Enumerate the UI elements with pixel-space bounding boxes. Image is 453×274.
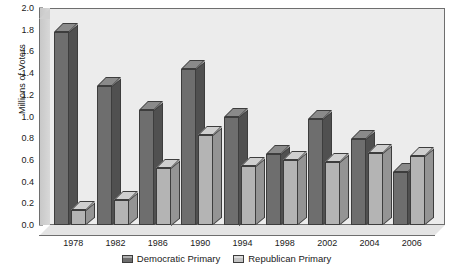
x-axis-tick-label-1994: 1994: [232, 238, 252, 248]
bar-front-face: [54, 32, 69, 225]
bars-layer: [39, 8, 445, 236]
bar-1978-republican: [71, 210, 86, 225]
bar-front-face: [224, 117, 239, 226]
plot-area: [39, 8, 445, 236]
bar-1998-democratic: [266, 154, 281, 225]
y-axis-tick-label: 0.4: [21, 177, 34, 187]
bar-side-face: [213, 127, 222, 225]
bar-front-face: [283, 160, 298, 225]
y-axis-tick-label: 1.2: [21, 90, 34, 100]
bar-2006-republican: [410, 156, 425, 225]
bar-front-face: [410, 156, 425, 225]
y-axis-tick-label: 0.6: [21, 155, 34, 165]
chart-legend: Democratic PrimaryRepublican Primary: [0, 253, 453, 264]
bar-front-face: [351, 139, 366, 225]
bar-side-face: [69, 24, 78, 225]
legend-swatch-icon: [233, 255, 244, 263]
bar-1986-democratic: [139, 110, 154, 225]
bar-front-face: [368, 153, 383, 225]
bar-chart: Millions of Voters 0.00.20.40.60.81.01.2…: [0, 0, 453, 274]
x-axis-tick-label-2004: 2004: [359, 238, 379, 248]
bar-1982-republican: [114, 200, 129, 225]
y-axis-tick-label: 1.4: [21, 68, 34, 78]
y-axis-tick-label: 0.0: [21, 220, 34, 230]
bar-front-face: [241, 166, 256, 225]
bar-front-face: [71, 210, 86, 225]
y-axis-tick-label: 0.8: [21, 133, 34, 143]
y-axis-tick-label: 0.2: [21, 198, 34, 208]
x-axis-tick-label-2002: 2002: [317, 238, 337, 248]
x-axis-tick-labels: 197819821986199019941998200220042006: [39, 238, 445, 252]
bar-front-face: [114, 200, 129, 225]
y-axis-tick-label: 2.0: [21, 3, 34, 13]
y-axis-tick-label: 1.8: [21, 25, 34, 35]
bar-side-face: [340, 155, 349, 225]
bar-1978-democratic: [54, 32, 69, 225]
bar-side-face: [425, 148, 434, 225]
bar-front-face: [393, 172, 408, 225]
bar-2004-democratic: [351, 139, 366, 225]
bar-front-face: [266, 154, 281, 225]
x-axis-tick-label-1982: 1982: [105, 238, 125, 248]
bar-1986-republican: [156, 168, 171, 226]
bar-2006-democratic: [393, 172, 408, 225]
y-axis-tick-label: 1.6: [21, 46, 34, 56]
bar-1982-democratic: [97, 86, 112, 225]
bar-side-face: [256, 159, 265, 225]
bar-1994-democratic: [224, 117, 239, 226]
bar-1998-republican: [283, 160, 298, 225]
legend-label: Republican Primary: [248, 253, 331, 264]
legend-swatch-icon: [122, 255, 133, 263]
bar-side-face: [171, 160, 180, 225]
bar-2004-republican: [368, 153, 383, 225]
legend-item-democratic[interactable]: Democratic Primary: [122, 253, 220, 264]
bar-1994-republican: [241, 166, 256, 225]
bar-front-face: [308, 119, 323, 225]
y-axis-tick-label: 1.0: [21, 112, 34, 122]
x-axis-tick-label-1998: 1998: [275, 238, 295, 248]
bar-2002-democratic: [308, 119, 323, 225]
bar-front-face: [325, 162, 340, 225]
bar-side-face: [298, 152, 307, 225]
bar-1990-republican: [198, 135, 213, 225]
bar-2002-republican: [325, 162, 340, 225]
legend-item-republican[interactable]: Republican Primary: [233, 253, 331, 264]
bar-front-face: [97, 86, 112, 225]
x-axis-tick-label-1990: 1990: [190, 238, 210, 248]
bar-front-face: [198, 135, 213, 225]
bar-front-face: [181, 69, 196, 225]
x-axis-tick-label-1978: 1978: [63, 238, 83, 248]
y-axis-tick-labels: 0.00.20.40.60.81.01.21.41.61.82.0: [4, 8, 34, 236]
bar-1990-democratic: [181, 69, 196, 225]
x-axis-tick-label-1986: 1986: [148, 238, 168, 248]
legend-label: Democratic Primary: [137, 253, 220, 264]
bar-side-face: [383, 146, 392, 225]
x-axis-tick-label-2006: 2006: [402, 238, 422, 248]
bar-front-face: [156, 168, 171, 226]
bar-front-face: [139, 110, 154, 225]
